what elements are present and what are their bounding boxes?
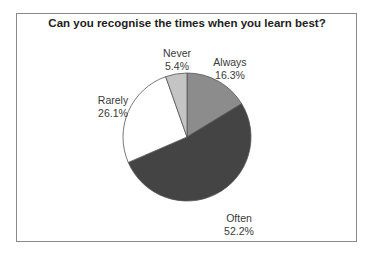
pie-chart: [0, 0, 374, 254]
label-rarely-pct: 26.1%: [88, 107, 138, 120]
label-never-name: Never: [152, 47, 202, 60]
label-always-pct: 16.3%: [200, 69, 260, 82]
label-rarely: Rarely 26.1%: [88, 94, 138, 120]
label-always-name: Always: [200, 56, 260, 69]
label-rarely-name: Rarely: [88, 94, 138, 107]
label-often-pct: 52.2%: [214, 225, 264, 238]
label-never-pct: 5.4%: [152, 60, 202, 73]
label-always: Always 16.3%: [200, 56, 260, 82]
label-never: Never 5.4%: [152, 47, 202, 73]
label-often-name: Often: [214, 212, 264, 225]
label-often: Often 52.2%: [214, 212, 264, 238]
